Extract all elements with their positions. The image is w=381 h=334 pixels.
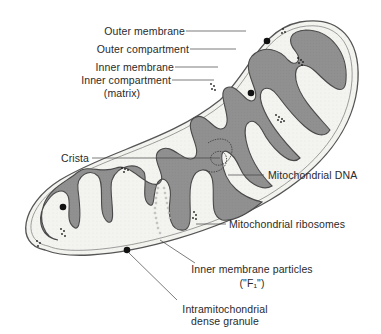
- label-inner-compartment-main: Inner compartment: [81, 74, 171, 86]
- label-mitochondrial-ribosomes: Mitochondrial ribosomes: [229, 218, 345, 230]
- label-inner-compartment: Inner compartment: [70, 74, 171, 86]
- label-inner-membrane-particles: Inner membrane particles ("F₁"): [188, 263, 316, 289]
- label-dense-granule-main: Intramitochondrial: [178, 303, 272, 315]
- label-outer-compartment: Outer compartment: [90, 43, 189, 55]
- label-inner-compartment-sub: (matrix): [100, 87, 144, 99]
- label-inner-membrane-particles-main: Inner membrane particles: [188, 263, 316, 275]
- label-dense-granule-sub: dense granule: [178, 315, 272, 327]
- label-outer-membrane: Outer membrane: [100, 25, 185, 37]
- label-dense-granule: Intramitochondrial dense granule: [178, 303, 272, 327]
- label-mitochondrial-dna: Mitochondrial DNA: [268, 169, 357, 181]
- label-crista: Crista: [61, 152, 89, 164]
- label-inner-membrane-particles-sub: ("F₁"): [188, 277, 316, 289]
- label-inner-membrane: Inner membrane: [90, 61, 174, 73]
